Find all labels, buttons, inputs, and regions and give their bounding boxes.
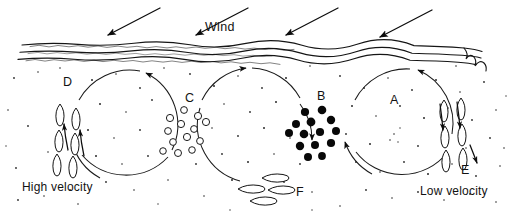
grain-f-2 — [238, 185, 265, 193]
zone-e-flow-arrow-3 — [470, 145, 477, 163]
zone-e-settling-grains — [440, 98, 477, 172]
zone-d-flow-arrow-2 — [80, 130, 84, 156]
grain-c — [202, 118, 209, 125]
wind-arrow-3-icon — [286, 8, 338, 35]
grain-c — [170, 139, 177, 146]
wind-erosion-diagram: Wind — [0, 0, 511, 219]
grain-d-4 — [71, 133, 79, 155]
circulation-cell-middle-arc-b — [202, 68, 246, 100]
grain-e-4 — [458, 124, 466, 146]
grain-b — [332, 127, 340, 135]
grain-b — [316, 128, 324, 136]
circulation-cell-a-arc-d — [345, 142, 372, 174]
grain-c — [183, 133, 190, 140]
high-velocity-label: High velocity — [22, 180, 93, 194]
grain-d-6 — [69, 156, 77, 178]
circulation-cell-left-arc-a — [79, 70, 140, 100]
grain-b — [285, 129, 293, 137]
cell-label-c: C — [185, 91, 194, 105]
grain-b — [307, 118, 316, 127]
circulation-cell-middle-arc-a — [252, 68, 300, 98]
grain-b — [318, 152, 326, 160]
cell-label-b: B — [317, 89, 326, 103]
zone-b-solid-grains — [285, 106, 340, 161]
grain-c — [175, 150, 182, 157]
grain-c — [189, 147, 196, 154]
circulation-cell-left-arc-c — [82, 155, 168, 175]
circulation-cell-a — [345, 69, 453, 175]
grain-d-3 — [55, 130, 63, 152]
grain-c — [194, 112, 201, 119]
zone-f-horizontal-grains — [238, 174, 295, 205]
grain-b — [327, 139, 335, 147]
grain-d-2 — [72, 108, 80, 130]
zone-d-rising-grains — [53, 104, 84, 178]
grain-c — [191, 126, 198, 133]
grain-c — [166, 114, 173, 121]
grain-e-5 — [442, 150, 450, 172]
wind-arrow-4-icon — [380, 10, 432, 37]
circulation-cell-a-arc-a — [355, 69, 410, 100]
wind-arrow-group — [108, 8, 432, 37]
grain-c — [181, 107, 188, 114]
grain-b — [296, 142, 304, 150]
crust-texture-lower — [26, 60, 280, 65]
grain-e-3 — [441, 126, 449, 148]
grain-c — [177, 120, 184, 127]
wind-label: Wind — [205, 20, 235, 34]
grain-d-1 — [56, 104, 64, 126]
circulation-cell-a-arc-c — [356, 152, 447, 175]
cell-label-a: A — [390, 93, 399, 107]
cell-label-f: F — [296, 185, 304, 199]
grain-d-5 — [53, 154, 61, 176]
circulation-cells-group — [72, 68, 453, 181]
wind-arrow-1-icon — [108, 8, 160, 35]
grain-b — [311, 141, 319, 149]
cell-label-e: E — [461, 163, 470, 177]
grain-c — [165, 128, 172, 135]
grain-b — [292, 120, 300, 128]
circulation-cell-left — [72, 70, 178, 178]
crust-tail-flourish — [464, 48, 486, 71]
grain-b — [300, 130, 309, 139]
grain-f-1 — [262, 174, 289, 182]
grain-b — [327, 116, 335, 124]
low-velocity-label: Low velocity — [420, 184, 488, 198]
grain-b — [301, 108, 309, 116]
grain-b — [318, 106, 327, 115]
grain-f-3 — [268, 186, 295, 194]
diagram-canvas: Wind — [0, 0, 511, 219]
grain-b — [304, 153, 312, 161]
cell-label-d: D — [63, 75, 72, 89]
grain-c — [197, 138, 204, 145]
grain-f-4 — [250, 197, 277, 205]
surface-crust-group — [18, 40, 486, 71]
zone-d-flow-arrow-1 — [64, 124, 68, 150]
grain-c — [160, 148, 167, 155]
